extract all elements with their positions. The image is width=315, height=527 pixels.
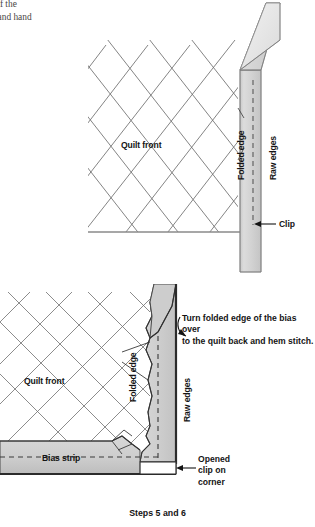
- label-quilt-front-fig1: Quilt front: [121, 140, 161, 150]
- label-folded-edge-fig1: Folded edge: [236, 130, 246, 180]
- figure-binding-turned-to-back: Quilt front Folded edge Raw edges Bias s…: [0, 284, 315, 499]
- figure-caption-steps: Steps 5 and 6: [0, 508, 315, 518]
- quilt-crosshatch-pattern: [0, 30, 250, 282]
- opened-clip-corner-notch: [140, 462, 176, 474]
- label-bias-strip-fig2: Bias strip: [42, 453, 80, 463]
- instruction-text-turn-folded-edge: Turn folded edge of the bias over to the…: [182, 313, 314, 347]
- figure-binding-strip-pinned: Quilt front Folded edge Raw edges Clip: [0, 0, 315, 282]
- label-clip-fig1: Clip: [279, 219, 295, 229]
- label-opened-clip-on-corner: Opened clip on corner: [198, 454, 230, 488]
- opened-clip-arrow: [176, 465, 196, 471]
- label-raw-edges-fig1: Raw edges: [268, 136, 278, 180]
- label-folded-edge-fig2: Folded edge: [128, 352, 138, 402]
- label-quilt-front-fig2: Quilt front: [24, 376, 64, 386]
- label-raw-edges-fig2: Raw edges: [182, 378, 192, 422]
